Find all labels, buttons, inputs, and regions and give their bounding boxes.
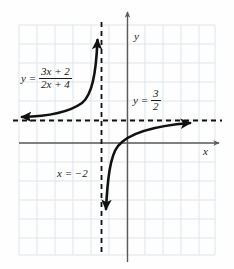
horizontal-asymptote-label: y =32 bbox=[133, 88, 161, 112]
asymptote-lines bbox=[13, 22, 222, 252]
curve-right-branch bbox=[106, 123, 190, 209]
y-axis-label: y bbox=[134, 31, 139, 42]
grid-lines bbox=[19, 25, 215, 255]
rational-function-figure: y x y =3x + 22x + 4 y =32 x = −2 bbox=[0, 0, 234, 269]
horizontal-asymptote-numerator: 3 bbox=[151, 88, 161, 100]
horizontal-asymptote-lhs: y = bbox=[133, 95, 151, 106]
horizontal-asymptote-fraction: 32 bbox=[151, 88, 161, 112]
function-equation-lhs: y = bbox=[21, 73, 39, 84]
vertical-asymptote-label: x = −2 bbox=[57, 168, 88, 179]
function-equation-label: y =3x + 22x + 4 bbox=[21, 66, 72, 90]
horizontal-asymptote-denominator: 2 bbox=[151, 100, 161, 113]
function-equation-denominator: 2x + 4 bbox=[39, 78, 72, 91]
x-axis-label: x bbox=[203, 146, 208, 157]
graph-canvas bbox=[0, 0, 234, 269]
coordinate-axes bbox=[19, 12, 219, 262]
function-equation-numerator: 3x + 2 bbox=[39, 66, 72, 78]
function-equation-fraction: 3x + 22x + 4 bbox=[39, 66, 72, 90]
